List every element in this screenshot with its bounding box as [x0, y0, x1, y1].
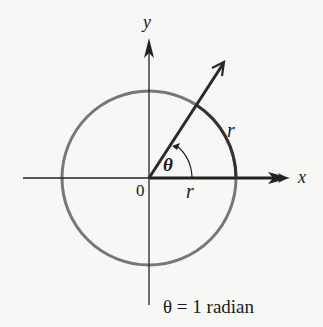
angle-arrow-icon: [172, 143, 180, 150]
theta-label: θ: [163, 155, 173, 174]
arc-length-r: [196, 105, 236, 178]
diagram-canvas: [0, 0, 323, 327]
radian-diagram: y x 0 r r θ θ = 1 radian: [0, 0, 323, 327]
arc-length-label: r: [227, 120, 235, 140]
angle-arc: [172, 143, 192, 178]
y-axis-label: y: [143, 13, 151, 31]
radius-label: r: [186, 181, 194, 201]
x-axis-label: x: [298, 168, 306, 186]
caption: θ = 1 radian: [163, 297, 254, 316]
origin-label: 0: [136, 182, 145, 199]
